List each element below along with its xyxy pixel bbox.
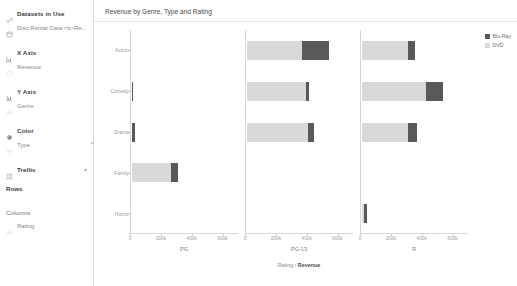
y-axis-field-label: Genre — [17, 103, 34, 109]
x-axis-tick-label: 200k — [265, 236, 287, 241]
stacked-bar[interactable] — [362, 82, 443, 101]
sidebar-section-color[interactable]: Color — [0, 124, 93, 137]
trellis-columns-field[interactable]: Rating — [0, 219, 93, 232]
category-icon — [6, 102, 13, 109]
y-axis-tick-mark — [129, 173, 131, 174]
legend-label: DVD — [493, 42, 504, 48]
bar-segment[interactable] — [247, 41, 302, 60]
stacked-bar[interactable] — [247, 41, 329, 60]
x-axis-tick-label: 200k — [150, 236, 172, 241]
chart-legend: Blu-RayDVD — [485, 33, 511, 48]
legend-item[interactable]: DVD — [485, 42, 511, 48]
plot-area: Genre ActionComedyDramaFamilyHorror0200k… — [130, 30, 468, 242]
legend-swatch — [485, 34, 490, 39]
trellis-rows-value[interactable] — [0, 195, 93, 207]
x-axis-tick-label: 0 — [234, 236, 256, 241]
y-axis-label: Y Axis — [17, 88, 36, 95]
x-axis-field[interactable]: Revenue — [0, 60, 93, 73]
bar-segment[interactable] — [362, 41, 408, 60]
x-axis-tick-label: 600k — [442, 236, 464, 241]
chevron-down-icon[interactable]: ▾ — [84, 166, 87, 173]
bar-segment[interactable] — [171, 163, 178, 182]
sidebar-section-y-axis[interactable]: Y Axis — [0, 85, 93, 98]
trellis-panel-label: PG-13 — [245, 246, 353, 252]
y-axis-field[interactable]: Genre — [0, 99, 93, 112]
x-axis-tick-label: 400k — [296, 236, 318, 241]
trellis-panel-label: R — [360, 246, 468, 252]
stacked-bar[interactable] — [132, 123, 135, 142]
stacked-bar[interactable] — [247, 82, 309, 101]
trellis-columns-label[interactable]: Columns — [0, 207, 93, 219]
y-axis-tick-mark — [129, 214, 131, 215]
legend-swatch — [485, 43, 490, 48]
chart-panel: Revenue by Genre, Type and Rating Blu-Ra… — [94, 0, 517, 286]
y-axis-tick-mark — [129, 132, 131, 133]
y-axis-icon — [6, 88, 13, 95]
y-axis-tick-label: Comedy — [89, 88, 129, 94]
dataset-item[interactable]: Disc Rental Data <b>Re... — [0, 21, 93, 34]
sidebar-spacer — [0, 152, 93, 163]
bar-segment[interactable] — [132, 123, 135, 142]
x-axis-tick-label: 400k — [411, 236, 433, 241]
bar-segment[interactable] — [132, 82, 133, 101]
bar-segment[interactable] — [132, 163, 171, 182]
stacked-bar[interactable] — [362, 123, 417, 142]
x-axis-tick-label: 600k — [327, 236, 349, 241]
bar-segment[interactable] — [247, 123, 308, 142]
x-axis-icon — [6, 49, 13, 56]
category-icon — [6, 222, 13, 229]
bar-segment[interactable] — [408, 41, 416, 60]
x-axis-tick-label: 200k — [380, 236, 402, 241]
x-axis-field-label: Revenue — [17, 64, 41, 70]
analytics-app-window: Datasets in Use Disc Rental Data <b>Re..… — [0, 0, 517, 286]
bar-segment[interactable] — [302, 41, 329, 60]
bar-segment[interactable] — [247, 82, 306, 101]
legend-item[interactable]: Blu-Ray — [485, 33, 511, 39]
link-icon — [6, 10, 13, 17]
database-icon — [6, 24, 13, 31]
x-axis-tick-label: 0 — [119, 236, 141, 241]
sidebar-section-trellis[interactable]: Trellis ▾ — [0, 163, 93, 176]
trellis-label: Trellis — [17, 166, 36, 173]
dataset-name: Disc Rental Data <b>Re... — [17, 25, 87, 31]
y-axis-tick-label: Family — [89, 170, 129, 176]
bar-segment[interactable] — [364, 204, 367, 223]
y-axis-tick-mark — [129, 50, 131, 51]
stacked-bar[interactable] — [362, 204, 367, 223]
sidebar-spacer — [0, 113, 93, 124]
measure-icon — [6, 63, 13, 70]
sidebar-section-x-axis[interactable]: X Axis — [0, 46, 93, 59]
category-icon — [6, 141, 13, 148]
bar-segment[interactable] — [426, 82, 444, 101]
sidebar-spacer — [0, 74, 93, 85]
stacked-bar[interactable] — [132, 163, 178, 182]
y-axis-tick-label: Action — [89, 47, 129, 53]
bar-segment[interactable] — [308, 123, 314, 142]
bar-segment[interactable] — [408, 123, 417, 142]
color-field[interactable]: Type — [0, 138, 93, 151]
stacked-bar[interactable] — [132, 82, 133, 101]
x-axis-title-rating: Rating / — [278, 262, 298, 268]
title-divider — [94, 21, 517, 22]
y-axis-tick-label: Drama — [89, 129, 129, 135]
x-axis-title-measure: Revenue — [298, 262, 320, 268]
bar-segment[interactable] — [362, 123, 408, 142]
x-axis-title: Rating / Revenue — [130, 262, 468, 268]
x-axis-label: X Axis — [17, 49, 36, 56]
y-axis-tick-label: Horror — [89, 211, 129, 217]
bar-segment[interactable] — [362, 82, 426, 101]
trellis-rows-label[interactable]: Rows — [0, 183, 93, 195]
bar-segment[interactable] — [306, 82, 309, 101]
stacked-bar[interactable] — [247, 123, 314, 142]
trellis-panel — [360, 30, 468, 234]
x-axis-tick-label: 600k — [212, 236, 234, 241]
trellis-columns-value: Rating — [17, 223, 34, 229]
datasets-in-use-header[interactable]: Datasets in Use — [0, 7, 93, 20]
trellis-panel-label: PG — [130, 246, 238, 252]
datasets-in-use-label: Datasets in Use — [17, 10, 65, 17]
palette-icon — [6, 127, 13, 134]
x-axis-tick-label: 0 — [349, 236, 371, 241]
stacked-bar[interactable] — [362, 41, 415, 60]
y-axis-tick-mark — [129, 91, 131, 92]
grid-icon — [6, 166, 13, 173]
